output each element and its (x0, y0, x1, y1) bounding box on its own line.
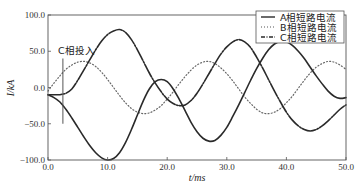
series-line-a (48, 41, 346, 160)
legend: A相短路电流 B相短路电流 C相短路电流 (256, 11, 344, 43)
y-tick-label: 100.0 (25, 10, 46, 20)
series-line-b (48, 61, 346, 113)
x-axis-title: t/ms (189, 172, 206, 183)
x-tick-label: 40.0 (279, 162, 295, 172)
x-tick-label: 30.0 (219, 162, 235, 172)
y-axis-title: I/kA (5, 79, 16, 98)
x-tick-label: 20.0 (159, 162, 175, 172)
y-tick-label: 0.0 (34, 83, 46, 93)
y-tick-label: −100.0 (20, 155, 46, 165)
x-tick-label: 10.0 (100, 162, 116, 172)
x-tick-label: 50.0 (338, 162, 354, 172)
annotation-label: C相投入 (58, 45, 95, 56)
y-tick-label: −50.0 (24, 119, 45, 129)
y-tick-label: 50.0 (29, 46, 45, 56)
line-chart: 0.010.020.030.040.050.0100.050.00.0−50.0… (0, 0, 361, 185)
legend-label-c: C相短路电流 (280, 32, 337, 43)
